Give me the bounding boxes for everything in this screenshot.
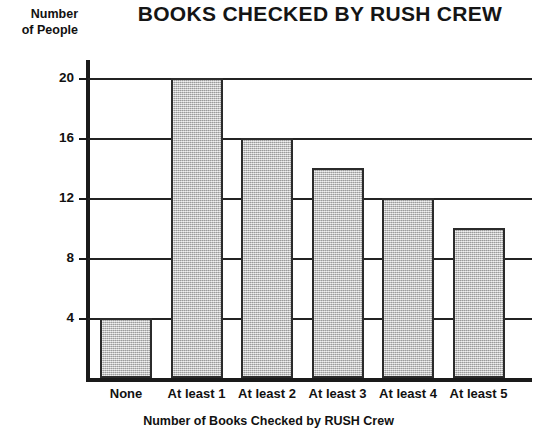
bar [453,228,505,378]
y-tick-label-8: 8 [44,253,74,263]
chart-title: BOOKS CHECKED BY RUSH CREW [108,2,532,26]
bar-chart-figure: BOOKS CHECKED BY RUSH CREW Number of Peo… [0,0,537,436]
y-axis-title-line-2: of People [4,22,78,38]
bar [171,78,223,378]
y-axis-title: Number of People [4,6,78,38]
gridline-20 [88,78,532,80]
x-tick-label: None [91,386,161,401]
x-tick-label: At least 4 [373,386,443,401]
y-tick-mark-4 [79,318,88,320]
y-tick-label-4: 4 [44,313,74,323]
gridline-12 [88,198,532,200]
bar [241,138,293,378]
plot-area: 48121620 NoneAt least 1At least 2At leas… [86,60,532,382]
bar [100,318,152,378]
y-tick-label-12: 12 [44,193,74,203]
y-tick-mark-12 [79,198,88,200]
gridline-16 [88,138,532,140]
x-tick-label: At least 3 [303,386,373,401]
y-tick-label-16: 16 [44,133,74,143]
x-tick-label: At least 5 [444,386,514,401]
y-tick-mark-8 [79,258,88,260]
x-axis-title: Number of Books Checked by RUSH Crew [0,414,537,428]
x-tick-label: At least 2 [232,386,302,401]
y-axis-line [86,60,90,382]
y-tick-mark-20 [79,78,88,80]
x-tick-label: At least 1 [162,386,232,401]
y-axis-title-line-1: Number [4,6,78,22]
bar [312,168,364,378]
y-tick-mark-16 [79,138,88,140]
x-axis-line [86,378,532,382]
bar [382,198,434,378]
y-tick-label-20: 20 [44,73,74,83]
